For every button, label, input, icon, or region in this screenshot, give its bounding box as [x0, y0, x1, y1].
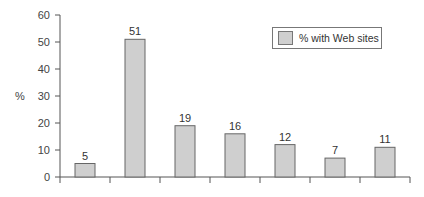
- bar-value-label: 11: [379, 133, 390, 145]
- y-tick-label: 40: [38, 63, 50, 75]
- y-tick-label: 60: [38, 9, 50, 21]
- bar-value-label: 12: [279, 131, 291, 143]
- bar: [375, 147, 395, 177]
- bar-value-label: 51: [129, 25, 141, 37]
- bar: [175, 126, 195, 177]
- y-tick-label: 0: [44, 171, 50, 183]
- bar: [275, 145, 295, 177]
- y-axis: 0102030405060: [38, 9, 60, 183]
- bar-value-label: 16: [229, 120, 241, 132]
- bar: [325, 158, 345, 177]
- y-tick-label: 50: [38, 36, 50, 48]
- x-axis: [60, 177, 410, 183]
- legend-swatch: [278, 31, 293, 45]
- bar-value-label: 19: [179, 112, 191, 124]
- legend-label: % with Web sites: [299, 32, 379, 44]
- bar: [75, 164, 95, 178]
- y-tick-label: 10: [38, 144, 50, 156]
- y-tick-label: 20: [38, 117, 50, 129]
- bar: [225, 134, 245, 177]
- legend: % with Web sites: [272, 27, 382, 49]
- bar: [125, 39, 145, 177]
- bar-value-label: 7: [332, 144, 338, 156]
- y-axis-label: %: [15, 90, 25, 102]
- bar-value-label: 5: [82, 150, 88, 162]
- y-tick-label: 30: [38, 90, 50, 102]
